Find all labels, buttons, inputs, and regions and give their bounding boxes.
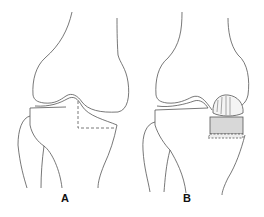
panel-b-drawing xyxy=(143,12,249,195)
panel-a-drawing xyxy=(18,12,129,188)
panel-label-a: A xyxy=(61,192,69,204)
panel-label-b: B xyxy=(183,192,191,204)
knee-illustration xyxy=(0,0,264,217)
